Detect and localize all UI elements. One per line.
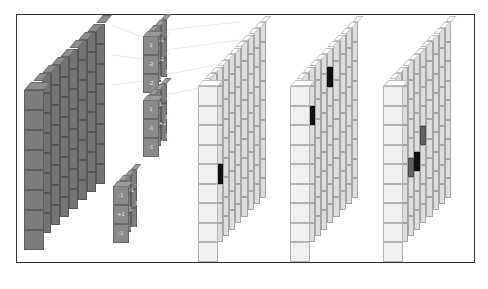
filter-weight: -2	[146, 62, 156, 67]
filter-weight: -1	[159, 140, 164, 145]
filter-weight: -1	[146, 126, 156, 131]
filter-weight: 1	[165, 115, 168, 120]
filter-weight: +1	[129, 226, 136, 231]
filter-weight: -1	[165, 96, 170, 101]
filter-weight: 1	[135, 201, 138, 206]
filter-weight: -1	[116, 231, 126, 236]
filter-weight: 1	[165, 134, 168, 139]
filter-weight: -1	[129, 188, 134, 193]
filter-weight: -2	[159, 57, 164, 62]
filter-weight: 1	[159, 76, 162, 81]
filter-weight: -1	[135, 182, 140, 187]
filter-weight: -1	[135, 220, 140, 225]
filter-weight: +1	[159, 121, 166, 126]
filter-weight: 1	[165, 70, 168, 75]
filter-weight: -2	[165, 51, 170, 56]
filter-weight: 1	[146, 107, 156, 112]
filter-weight: -2	[146, 81, 156, 86]
filter-weight: 1	[146, 43, 156, 48]
filter-weight: -2	[165, 32, 170, 37]
filter-weight: -1	[146, 145, 156, 150]
filter-weight: 1	[129, 207, 132, 212]
filter-weight: -1	[159, 38, 164, 43]
filter-weight: 1	[159, 102, 162, 107]
filter-weight: +1	[116, 212, 126, 217]
filter-weight: -1	[116, 193, 126, 198]
